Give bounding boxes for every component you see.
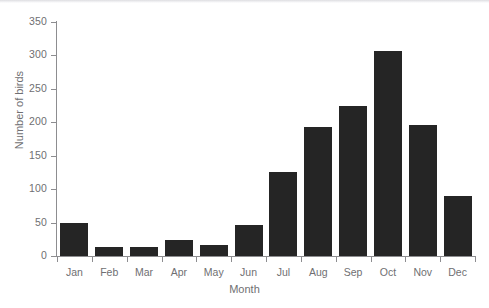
- y-axis-tick-label: 0: [7, 249, 47, 261]
- bar-nov: [409, 125, 437, 256]
- y-axis-tick: [51, 189, 56, 190]
- y-axis-tick: [51, 223, 56, 224]
- y-axis-tick-label: 350: [7, 15, 47, 27]
- x-axis-tick: [440, 257, 441, 262]
- bar-dec: [444, 196, 472, 256]
- bar-mar: [130, 247, 158, 256]
- y-axis-tick: [51, 22, 56, 23]
- y-axis-tick: [51, 55, 56, 56]
- bar-apr: [165, 240, 193, 256]
- scan-artifact-line: [0, 0, 489, 3]
- x-axis-tick-label: Jun: [231, 266, 266, 278]
- bar-chart: 050100150200250300350 JanFebMarAprMayJun…: [0, 0, 489, 308]
- x-axis-tick-label: May: [196, 266, 231, 278]
- x-axis-tick: [371, 257, 372, 262]
- x-axis-tick: [231, 257, 232, 262]
- x-axis-title: Month: [0, 283, 489, 295]
- x-axis-tick-label: Nov: [405, 266, 440, 278]
- x-axis-tick-label: Jan: [57, 266, 92, 278]
- x-axis-tick-label: Apr: [162, 266, 197, 278]
- x-axis-tick: [266, 257, 267, 262]
- bar-jan: [60, 223, 88, 256]
- y-axis-title: Number of birds: [13, 40, 25, 180]
- y-axis-tick: [51, 256, 56, 257]
- x-axis-tick-label: Feb: [92, 266, 127, 278]
- x-axis-tick: [57, 257, 58, 262]
- x-axis-tick: [405, 257, 406, 262]
- y-axis-tick-label: 50: [7, 216, 47, 228]
- x-axis-tick: [301, 257, 302, 262]
- x-axis-tick-label: Dec: [440, 266, 475, 278]
- x-axis-tick: [336, 257, 337, 262]
- bar-jul: [269, 172, 297, 256]
- x-axis-tick-label: Aug: [301, 266, 336, 278]
- bar-feb: [95, 247, 123, 256]
- bar-oct: [374, 51, 402, 256]
- x-axis-tick: [127, 257, 128, 262]
- bar-jun: [235, 225, 263, 256]
- plot-area: [57, 22, 475, 256]
- x-axis-tick: [196, 257, 197, 262]
- y-axis-tick: [51, 156, 56, 157]
- y-axis-tick: [51, 122, 56, 123]
- x-axis-end-tick: [475, 257, 476, 262]
- x-axis-tick: [162, 257, 163, 262]
- bar-sep: [339, 106, 367, 256]
- x-axis-tick-label: Mar: [127, 266, 162, 278]
- y-axis-tick-label: 100: [7, 182, 47, 194]
- x-axis-tick: [92, 257, 93, 262]
- bar-may: [200, 245, 228, 256]
- x-axis-tick-label: Oct: [371, 266, 406, 278]
- bar-aug: [304, 127, 332, 256]
- y-axis-tick: [51, 89, 56, 90]
- x-axis-tick-label: Sep: [336, 266, 371, 278]
- x-axis-tick-label: Jul: [266, 266, 301, 278]
